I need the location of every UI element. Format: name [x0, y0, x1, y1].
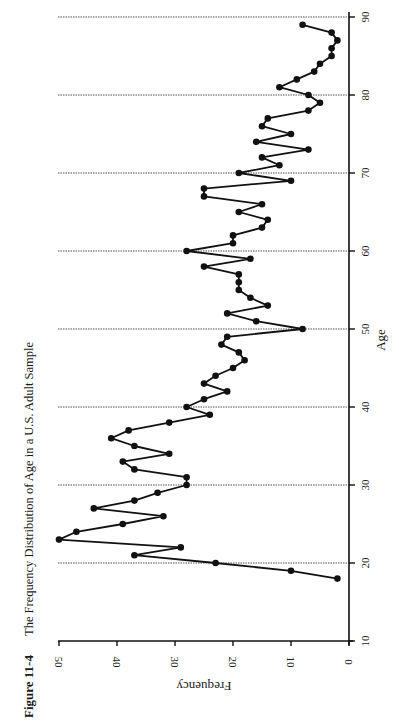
- data-point-age-77: [265, 115, 272, 122]
- age-tick-label-20: 20: [359, 557, 371, 569]
- data-point-age-88: [328, 29, 335, 36]
- data-point-age-19: [288, 568, 295, 575]
- data-point-age-68: [201, 185, 208, 192]
- data-point-age-59: [247, 255, 254, 262]
- data-point-age-20: [212, 560, 219, 567]
- data-point-age-60: [183, 248, 190, 255]
- frequency-tick-label-10: 10: [285, 657, 297, 669]
- frequency-polygon-chart: Figure 11-4 The Frequency Distribution o…: [0, 0, 399, 726]
- data-point-age-44: [212, 373, 219, 380]
- data-point-age-32: [131, 466, 138, 473]
- data-point-age-41: [201, 396, 208, 403]
- age-tick-label-50: 50: [359, 323, 371, 335]
- data-point-age-25: [120, 521, 127, 528]
- data-point-age-45: [230, 365, 237, 372]
- data-point-age-57: [236, 271, 243, 278]
- data-point-age-80: [305, 92, 312, 99]
- data-point-age-84: [317, 61, 324, 68]
- data-point-age-21: [131, 552, 138, 559]
- axes: 10203040506070809001020304050: [53, 11, 371, 668]
- data-point-age-23: [56, 536, 63, 543]
- data-point-age-33: [120, 458, 127, 465]
- data-point-age-53: [265, 302, 272, 309]
- data-point-age-72: [259, 154, 266, 161]
- data-point-age-31: [183, 474, 190, 481]
- data-point-age-56: [236, 279, 243, 286]
- data-point-age-29: [154, 490, 161, 497]
- data-point-age-50: [299, 326, 306, 333]
- age-tick-label-40: 40: [359, 401, 371, 413]
- age-tick-label-90: 90: [359, 11, 371, 23]
- data-point-age-43: [201, 380, 208, 387]
- frequency-tick-label-0: 0: [343, 659, 355, 665]
- data-point-age-51: [253, 318, 260, 325]
- frequency-tick-label-50: 50: [53, 657, 65, 669]
- data-point-age-49: [224, 334, 231, 341]
- data-point-age-52: [224, 310, 231, 317]
- data-point-age-67: [201, 193, 208, 200]
- age-tick-label-80: 80: [359, 89, 371, 101]
- data-point-age-66: [259, 201, 266, 208]
- data-point-age-76: [259, 123, 266, 130]
- age-tick-label-30: 30: [359, 479, 371, 491]
- age-tick-label-10: 10: [359, 635, 371, 647]
- data-point-age-35: [131, 443, 138, 450]
- data-point-age-58: [201, 263, 208, 270]
- data-point-age-85: [328, 53, 335, 60]
- data-point-age-34: [166, 451, 173, 458]
- data-point-age-79: [317, 100, 324, 107]
- frequency-axis-label: Frequency: [176, 679, 231, 694]
- data-point-age-83: [311, 68, 318, 75]
- chart-canvas: Figure 11-4 The Frequency Distribution o…: [0, 0, 399, 726]
- figure-label: Figure 11-4: [21, 655, 36, 718]
- data-point-age-55: [236, 287, 243, 294]
- data-point-age-78: [305, 107, 312, 114]
- data-point-age-65: [236, 209, 243, 216]
- data-point-age-75: [288, 131, 295, 138]
- data-point-age-70: [236, 170, 243, 177]
- data-point-age-86: [328, 45, 335, 52]
- age-tick-label-60: 60: [359, 245, 371, 257]
- data-point-age-18: [334, 575, 341, 582]
- frequency-tick-label-20: 20: [227, 657, 239, 669]
- frequency-tick-label-40: 40: [111, 657, 123, 669]
- figure-title: The Frequency Distribution of Age in a U…: [22, 341, 36, 636]
- data-point-age-89: [299, 22, 306, 29]
- data-point-age-46: [241, 357, 248, 364]
- data-point-age-38: [166, 419, 173, 426]
- data-point-age-22: [178, 544, 185, 551]
- data-point-age-64: [265, 217, 272, 224]
- data-point-age-48: [218, 341, 225, 348]
- data-point-age-24: [73, 529, 80, 536]
- data-point-age-61: [230, 240, 237, 247]
- data-point-age-47: [236, 349, 243, 356]
- data-point-age-39: [207, 412, 214, 419]
- data-point-age-81: [276, 84, 283, 91]
- data-point-age-26: [160, 513, 167, 520]
- frequency-tick-label-30: 30: [169, 657, 181, 669]
- data-point-age-37: [125, 427, 132, 434]
- age-gridlines: [58, 17, 349, 563]
- data-point-age-63: [259, 224, 266, 231]
- data-point-age-40: [183, 404, 190, 411]
- data-point-age-36: [108, 435, 115, 442]
- data-point-age-30: [183, 482, 190, 489]
- data-point-age-27: [91, 505, 98, 512]
- figure-caption: Figure 11-4 The Frequency Distribution o…: [21, 341, 36, 718]
- age-tick-label-70: 70: [359, 167, 371, 179]
- frequency-line: [59, 25, 337, 579]
- data-point-age-54: [247, 295, 254, 302]
- data-point-age-82: [294, 76, 301, 83]
- age-axis-label: Age: [373, 329, 388, 351]
- data-point-age-28: [131, 497, 138, 504]
- data-point-age-73: [305, 146, 312, 153]
- age-frequency-series: [56, 22, 341, 582]
- data-point-age-42: [224, 388, 231, 395]
- data-point-age-69: [288, 178, 295, 185]
- data-point-age-62: [230, 232, 237, 239]
- data-point-age-71: [276, 162, 283, 169]
- data-point-age-87: [334, 37, 341, 44]
- data-point-age-74: [253, 139, 260, 146]
